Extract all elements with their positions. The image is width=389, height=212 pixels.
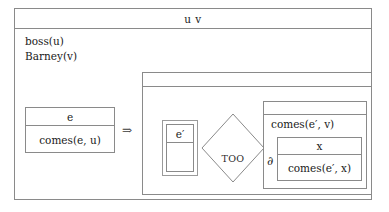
diagram-canvas: u v boss(u) Barney(v) e comes(e, u) ⇒ [0, 0, 389, 212]
event-eprime-box: e′ [162, 120, 198, 176]
nested-x-condition-label: comes(e′, x) [288, 162, 351, 174]
antecedent-condition: comes(e, u) [26, 126, 114, 153]
implication-arrow-icon: ⇒ [119, 121, 135, 139]
proposition-universe [264, 102, 366, 115]
outer-drs-conditions: boss(u) Barney(v) [25, 34, 77, 64]
event-eprime-label: e′ [176, 128, 185, 140]
antecedent-universe-label: e [67, 111, 73, 123]
relation-diamond: TOO [200, 112, 266, 184]
relation-diamond-label: TOO [200, 153, 266, 164]
proposition-box: comes(e′, v) ∂ x comes(e′, x) [263, 101, 367, 189]
antecedent-condition-label: comes(e, u) [39, 134, 101, 146]
nested-x-box: x comes(e′, x) [277, 137, 362, 181]
condition-barney: Barney(v) [25, 49, 77, 64]
nested-x-condition: comes(e′, x) [278, 155, 361, 181]
consequent-box: e′ TOO comes(e′, v) [142, 72, 372, 195]
implication-arrow-glyph: ⇒ [122, 123, 132, 137]
antecedent-box: e comes(e, u) [25, 107, 115, 153]
outer-drs-universe-label: u v [184, 13, 202, 25]
nested-x-universe: x [278, 138, 361, 155]
partial-operator-icon: ∂ [267, 154, 273, 168]
antecedent-universe: e [26, 108, 114, 126]
condition-boss: boss(u) [25, 34, 77, 49]
outer-drs-box: u v boss(u) Barney(v) e comes(e, u) ⇒ [14, 8, 372, 200]
consequent-universe [143, 73, 371, 87]
relation-diamond-shape [200, 112, 266, 184]
event-eprime-inner-box: e′ [166, 124, 194, 172]
outer-drs-universe: u v [15, 9, 371, 29]
proposition-condition-label: comes(e′, v) [271, 118, 334, 130]
event-eprime-universe: e′ [167, 125, 193, 143]
event-eprime-conditions [167, 143, 193, 171]
nested-x-universe-label: x [317, 140, 323, 152]
